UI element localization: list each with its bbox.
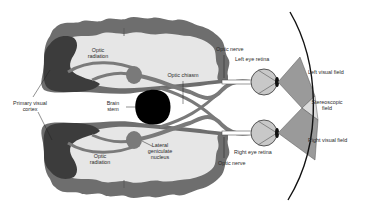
label-right-eye-retina: Right eye retina	[234, 149, 272, 155]
label-left-eye-retina: Left eye retina	[235, 56, 269, 62]
lateral-geniculate-nucleus-bottom	[126, 131, 142, 149]
label-optic-radiation-top-2: radiation	[88, 53, 109, 59]
label-stereoscopic-field-2: field	[322, 105, 332, 111]
label-left-visual-field: Left visual field	[308, 69, 344, 75]
label-brain-stem-2: stem	[107, 106, 119, 112]
label-lgn-3: nucleus	[151, 154, 170, 160]
label-optic-nerve-top: Optic nerve	[216, 46, 244, 52]
right-eye	[251, 120, 277, 146]
lateral-geniculate-nucleus-top	[126, 66, 142, 84]
label-optic-radiation-bottom-2: radiation	[90, 159, 111, 165]
label-right-visual-field: Right visual field	[308, 137, 347, 143]
brain-stem	[135, 90, 170, 125]
label-optic-chiasm: Optic chiasm	[167, 72, 199, 78]
label-primary-visual-cortex-2: cortex	[23, 106, 38, 112]
visual-pathway-diagram: Optic radiation Primary visual cortex Br…	[0, 0, 368, 215]
left-eye	[251, 69, 277, 95]
label-optic-nerve-bottom: Optic nerve	[218, 160, 246, 166]
